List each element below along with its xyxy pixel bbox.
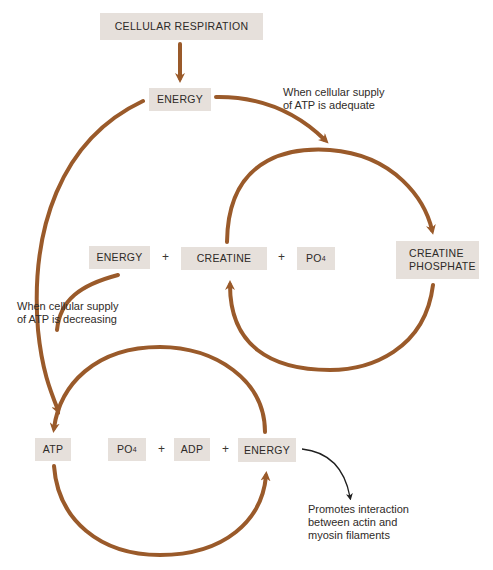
cellular-respiration-box: CELLULAR RESPIRATION: [100, 13, 263, 40]
energy-bottom-box: ENERGY: [238, 438, 296, 462]
note-promotes-line2: between actin and: [308, 516, 409, 529]
note-adequate-line2: of ATP is adequate: [283, 99, 385, 112]
note-decreasing-line2: of ATP is decreasing: [17, 313, 119, 326]
note-decreasing: When cellular supply of ATP is decreasin…: [17, 300, 119, 326]
arc-creatine-to-phosphate: [227, 150, 432, 242]
plus-sign: +: [162, 250, 169, 264]
plus-sign: +: [222, 442, 229, 456]
note-adequate: When cellular supply of ATP is adequate: [283, 86, 385, 112]
creatine-phosphate-box: CREATINE PHOSPHATE: [396, 241, 479, 279]
note-adequate-line1: When cellular supply: [283, 86, 385, 99]
adp-box: ADP: [174, 438, 210, 461]
po4-subscript: 4: [133, 443, 137, 456]
po4-subscript: 4: [322, 252, 326, 265]
po4-label: PO: [306, 252, 322, 265]
note-promotes: Promotes interaction between actin and m…: [308, 503, 409, 542]
arc-to-atp: [54, 347, 265, 432]
po4-middle-box: PO4: [297, 247, 335, 270]
note-decreasing-line1: When cellular supply: [17, 300, 119, 313]
arrow-energy-to-promotes: [302, 449, 350, 497]
plus-sign: +: [278, 250, 285, 264]
energy-middle-box: ENERGY: [89, 246, 150, 269]
po4-label: PO: [117, 443, 133, 456]
creatine-phosphate-line1: CREATINE: [409, 247, 479, 260]
energy-top-box: ENERGY: [149, 88, 211, 111]
note-promotes-line3: myosin filaments: [308, 529, 409, 542]
creatine-phosphate-line2: PHOSPHATE: [409, 260, 479, 273]
arrow-layer: [0, 0, 493, 570]
plus-sign: +: [158, 442, 165, 456]
creatine-box: CREATINE: [181, 247, 267, 270]
arc-phosphate-to-creatine: [230, 285, 433, 370]
po4-bottom-box: PO4: [108, 438, 146, 461]
arc-atp-to-energy: [54, 466, 266, 555]
atp-box: ATP: [35, 438, 71, 461]
note-promotes-line1: Promotes interaction: [308, 503, 409, 516]
